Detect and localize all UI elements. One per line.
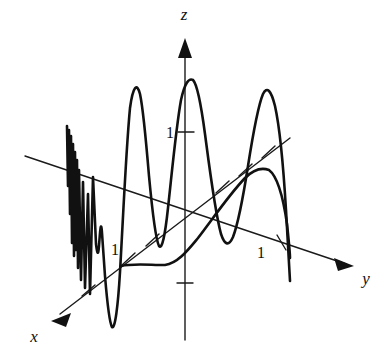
y-axis-arrowhead	[334, 258, 354, 271]
y-axis-tick-label-1: 1	[257, 244, 265, 261]
y-axis-tick-1	[277, 235, 286, 250]
y-axis-label: y	[360, 269, 370, 288]
z-axis-group: 1 z	[166, 5, 194, 340]
z-axis-label: z	[180, 5, 188, 24]
x-axis-arrowhead	[51, 313, 71, 327]
plot-svg: 1 y 1 x 1 z	[0, 0, 391, 357]
figure-canvas: 1 y 1 x 1 z	[0, 0, 391, 357]
x-axis-tick-1	[122, 253, 135, 265]
z-axis-arrowhead	[178, 38, 192, 58]
x-axis-tick-e	[262, 146, 275, 158]
z-axis-tick-label-1: 1	[166, 124, 174, 141]
oscillating-trace	[67, 80, 290, 328]
x-axis-label: x	[29, 327, 38, 346]
x-axis-tick-label-1: 1	[111, 241, 119, 258]
